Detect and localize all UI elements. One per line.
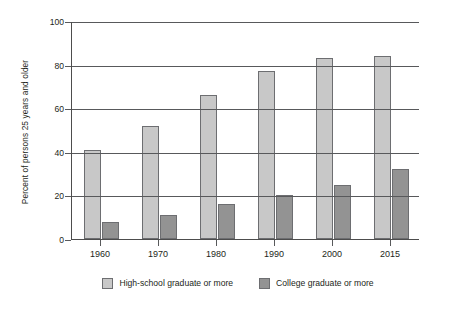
bar-college-1970 <box>160 215 177 239</box>
gridline-40 <box>72 153 419 154</box>
legend-item-college: College graduate or more <box>259 278 373 289</box>
x-tick-label-1990: 1990 <box>244 249 304 260</box>
bar-group-2000 <box>304 22 362 239</box>
y-tick-label-40: 40 <box>36 149 64 158</box>
bar-college-2015 <box>392 169 409 239</box>
bar-group-1960 <box>72 22 130 239</box>
x-tick-mark-2015 <box>390 240 391 246</box>
x-tick-mark-1970 <box>158 240 159 246</box>
x-tick-label-1980: 1980 <box>186 249 246 260</box>
x-tick-mark-1990 <box>274 240 275 246</box>
y-tick-label-80: 80 <box>36 62 64 71</box>
bar-high-school-1990 <box>258 71 275 239</box>
gridline-80 <box>72 66 419 67</box>
x-tick-mark-1980 <box>216 240 217 246</box>
x-tick-mark-2000 <box>332 240 333 246</box>
bar-high-school-1980 <box>200 95 217 239</box>
bar-high-school-2015 <box>374 56 391 239</box>
y-tick-label-0: 0 <box>36 236 64 245</box>
y-tick-mark-60 <box>65 109 71 110</box>
y-tick-mark-20 <box>65 196 71 197</box>
bar-group-1990 <box>246 22 304 239</box>
bar-group-1980 <box>188 22 246 239</box>
y-axis-title: Percent of persons 25 years and older <box>18 22 32 242</box>
chart-legend: High-school graduate or moreCollege grad… <box>0 278 476 289</box>
plot-area <box>71 22 419 240</box>
legend-label: High-school graduate or more <box>119 278 233 289</box>
bar-high-school-1960 <box>84 150 101 239</box>
x-tick-mark-1960 <box>100 240 101 246</box>
bar-group-1970 <box>130 22 188 239</box>
y-tick-label-20: 20 <box>36 192 64 201</box>
gridline-60 <box>72 109 419 110</box>
y-tick-label-60: 60 <box>36 105 64 114</box>
x-tick-label-1970: 1970 <box>128 249 188 260</box>
gridline-20 <box>72 196 419 197</box>
y-tick-mark-80 <box>65 66 71 67</box>
gridline-100 <box>72 22 419 23</box>
x-tick-label-2000: 2000 <box>302 249 362 260</box>
y-tick-mark-100 <box>65 22 71 23</box>
bars-layer <box>72 22 419 239</box>
x-tick-label-1960: 1960 <box>70 249 130 260</box>
bar-college-1980 <box>218 204 235 239</box>
legend-item-high-school: High-school graduate or more <box>102 278 233 289</box>
bar-group-2015 <box>362 22 420 239</box>
bar-college-1960 <box>102 222 119 239</box>
x-tick-label-2015: 2015 <box>360 249 420 260</box>
legend-swatch-icon-high-school <box>102 278 113 289</box>
bar-high-school-1970 <box>142 126 159 239</box>
y-tick-mark-0 <box>65 240 71 241</box>
bar-chart-figure: Percent of persons 25 years and older 02… <box>0 0 476 309</box>
bar-college-2000 <box>334 185 351 240</box>
y-tick-label-100: 100 <box>36 18 64 27</box>
y-tick-mark-40 <box>65 153 71 154</box>
legend-swatch-icon-college <box>259 278 270 289</box>
legend-label: College graduate or more <box>276 278 373 289</box>
bar-college-1990 <box>276 195 293 239</box>
bar-high-school-2000 <box>316 58 333 239</box>
